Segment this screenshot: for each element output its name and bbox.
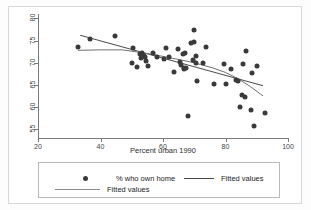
legend-label-scatter: % who own home — [116, 174, 175, 183]
chart-legend: % who own home Fitted values Fitted valu… — [38, 162, 280, 198]
x-tick-mark — [101, 138, 102, 142]
chart-screenshot: 556065707580 20406080100 Percent urban 1… — [0, 0, 311, 210]
scatter-point — [229, 66, 234, 71]
scatter-point — [176, 47, 181, 52]
scatter-point — [250, 71, 255, 76]
scatter-point — [186, 113, 191, 118]
scatter-point — [221, 61, 226, 66]
scatter-point — [76, 45, 81, 50]
scatter-point — [88, 37, 93, 42]
scatter-point — [204, 45, 209, 50]
scatter-point — [241, 62, 246, 67]
legend-label-fitted-2: Fitted values — [107, 185, 150, 194]
scatter-point — [251, 123, 256, 128]
legend-line-fitted-2 — [55, 189, 100, 190]
scatter-point — [131, 46, 136, 51]
x-tick-mark — [288, 138, 289, 142]
scatter-point — [193, 54, 198, 59]
legend-label-fitted-1: Fitted values — [221, 174, 264, 183]
scatter-point — [235, 79, 240, 84]
series-layer — [38, 14, 288, 138]
x-axis-title: Percent urban 1990 — [38, 146, 288, 155]
scatter-point — [211, 81, 216, 86]
scatter-point — [243, 49, 248, 54]
scatter-point — [255, 64, 260, 69]
scatter-point — [194, 61, 199, 66]
legend-marker-scatter — [83, 176, 88, 181]
plot-area: 556065707580 20406080100 — [38, 14, 288, 138]
scatter-point — [113, 34, 118, 39]
scatter-point — [237, 104, 242, 109]
scatter-point — [161, 56, 166, 61]
scatter-point — [192, 39, 197, 44]
x-tick-mark — [38, 138, 39, 142]
scatter-point — [155, 54, 160, 59]
scatter-point — [163, 45, 168, 50]
scatter-point — [167, 55, 172, 60]
x-tick-mark — [163, 138, 164, 142]
scatter-point — [249, 108, 254, 113]
legend-line-fitted-1 — [184, 178, 214, 179]
scatter-point — [184, 65, 189, 70]
x-tick-mark — [226, 138, 227, 142]
scatter-point — [172, 70, 177, 75]
scatter-point — [201, 60, 206, 65]
scatter-point — [135, 65, 140, 70]
scatter-point — [262, 111, 267, 116]
scatter-point — [242, 94, 247, 99]
scatter-point — [195, 78, 200, 83]
scatter-point — [191, 27, 196, 32]
scatter-point — [223, 81, 228, 86]
scatter-point — [130, 60, 135, 65]
scatter-point — [145, 63, 150, 68]
scatter-point — [183, 51, 188, 56]
